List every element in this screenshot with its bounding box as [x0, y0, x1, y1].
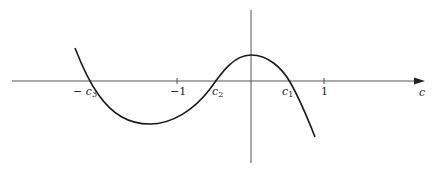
x-axis-arrow-icon — [414, 78, 425, 85]
graph-figure: − c3 −1 c2 c1 1 c — [0, 0, 437, 169]
x-axis-label: c — [419, 86, 425, 99]
label-one: 1 — [321, 85, 328, 98]
function-curve — [75, 48, 315, 137]
label-neg-one: −1 — [170, 85, 186, 98]
label-c2: c2 — [212, 85, 223, 99]
label-c1: c1 — [282, 85, 293, 99]
